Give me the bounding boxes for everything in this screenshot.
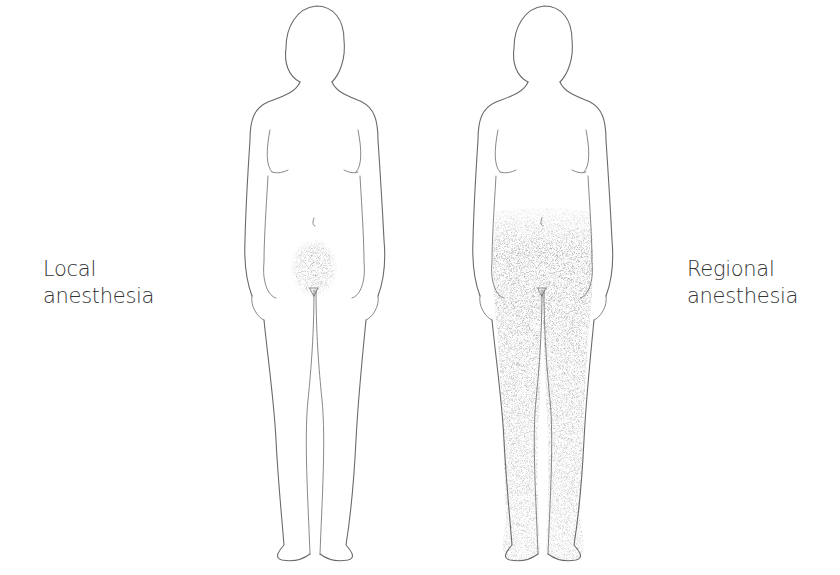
- label-local-line2: anesthesia: [43, 283, 154, 310]
- label-local-line1: Local: [43, 256, 154, 283]
- figure-regional-anesthesia: [456, 0, 636, 575]
- label-local-anesthesia: Local anesthesia: [43, 256, 154, 310]
- regional-shaded-area: [493, 208, 593, 561]
- figure-local-anesthesia: [228, 0, 408, 575]
- label-regional-anesthesia: Regional anesthesia: [687, 256, 798, 310]
- label-regional-line1: Regional: [687, 256, 798, 283]
- local-shaded-area: [290, 238, 338, 298]
- label-regional-line2: anesthesia: [687, 283, 798, 310]
